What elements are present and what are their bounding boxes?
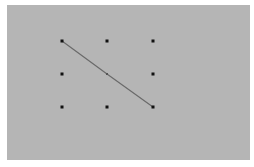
pattern-dot-0-0[interactable]	[61, 40, 64, 43]
pattern-dot-2-0[interactable]	[61, 106, 64, 109]
pattern-dot-1-2[interactable]	[152, 73, 155, 76]
pattern-dot-0-2[interactable]	[152, 40, 155, 43]
pattern-dot-1-1[interactable]	[106, 73, 108, 75]
pattern-dot-2-1[interactable]	[106, 106, 109, 109]
pattern-grid[interactable]	[0, 0, 254, 167]
pattern-dot-0-1[interactable]	[106, 40, 109, 43]
pattern-dot-2-2[interactable]	[152, 106, 155, 109]
pattern-dot-1-0[interactable]	[61, 73, 64, 76]
